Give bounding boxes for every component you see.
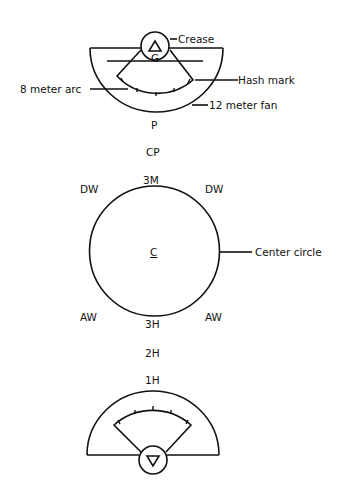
bottom-crease-circle bbox=[139, 446, 167, 474]
goalie-label: G bbox=[151, 52, 159, 64]
hash-mark-label: Hash mark bbox=[238, 74, 296, 86]
position-two-home: 2H bbox=[145, 347, 160, 359]
center-circle-label: Center circle bbox=[255, 246, 322, 258]
field-diagram: G Crease Hash mark 8 meter arc 12 meter … bbox=[0, 0, 345, 481]
twelve-meter-fan-label: 12 meter fan bbox=[209, 99, 277, 111]
eight-meter-arc-label: 8 meter arc bbox=[20, 83, 81, 95]
position-cover-point: CP bbox=[146, 146, 160, 158]
position-three-man: 3M bbox=[143, 174, 159, 186]
position-defensive-wing-right: DW bbox=[205, 183, 224, 195]
position-attack-wing-left: AW bbox=[80, 311, 98, 323]
position-one-home: 1H bbox=[145, 374, 160, 386]
crease-label: Crease bbox=[178, 33, 214, 45]
position-attack-wing-right: AW bbox=[205, 311, 223, 323]
position-three-home: 3H bbox=[145, 318, 160, 330]
top-goal-area: G Crease Hash mark 8 meter arc 12 meter … bbox=[20, 32, 296, 112]
position-center: C bbox=[150, 246, 157, 258]
position-defensive-wing-left: DW bbox=[80, 183, 99, 195]
bottom-goal-area bbox=[87, 391, 219, 474]
position-point: P bbox=[151, 119, 157, 131]
